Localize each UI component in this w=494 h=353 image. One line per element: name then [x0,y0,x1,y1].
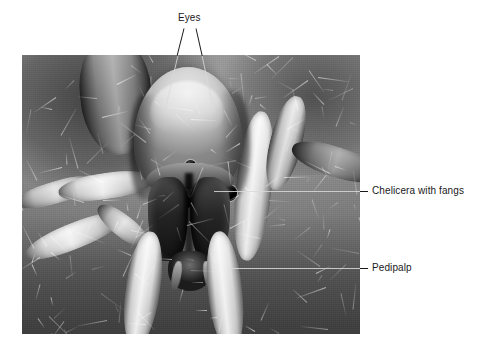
label-chelicera-with-fangs: Chelicera with fangs [372,185,464,197]
leader-line-pedipalp-1-inner [232,268,360,269]
micrograph-plate [22,55,360,334]
seta [209,317,216,319]
label-pedipalp: Pedipalp [372,262,412,274]
leader-line-chelicera-1-outer [360,191,368,192]
figure-container: Eyes Chelicera with fangs Pedipalp [0,0,494,353]
label-eyes: Eyes [178,12,201,24]
seta [192,282,203,283]
leader-line-chelicera-1-inner [214,191,360,192]
seta [243,221,244,240]
leader-line-eyes-2-outer [196,28,203,55]
seta [103,199,120,200]
leader-line-pedipalp-1-outer [360,268,368,269]
leader-line-eyes-1-outer [177,28,185,55]
